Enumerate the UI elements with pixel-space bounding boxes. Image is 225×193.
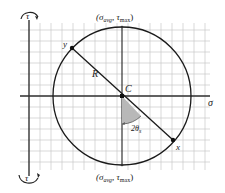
label-radius: R xyxy=(91,68,98,79)
point-x xyxy=(171,138,175,142)
point-center xyxy=(120,94,124,98)
mohrs-circle-diagram: y x C R σ (σavg, τmax) (σavg, τmax) 2θs … xyxy=(0,0,225,193)
label-x: x xyxy=(175,142,180,152)
angle-wedge xyxy=(122,96,141,124)
label-top-point: (σavg, τmax) xyxy=(96,12,133,23)
label-bottom-point: (σavg, τmax) xyxy=(96,172,133,183)
tau-top-label-group: τ xyxy=(21,11,38,21)
rotation-arrow-cw-icon xyxy=(21,12,38,19)
label-center: C xyxy=(125,83,132,94)
label-sigma-axis: σ xyxy=(208,97,214,108)
point-bottom xyxy=(121,164,124,167)
label-y: y xyxy=(62,39,67,49)
rotation-arrow-ccw-icon xyxy=(19,175,38,183)
label-angle: 2θs xyxy=(131,124,142,134)
point-top xyxy=(121,26,124,29)
point-y xyxy=(70,46,74,50)
arrowhead-icon xyxy=(37,173,40,178)
